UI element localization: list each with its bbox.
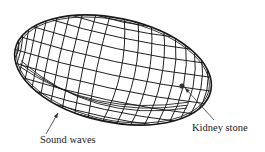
kidney-stone-label: Kidney stone	[192, 123, 248, 134]
sound-waves-label: Sound waves	[40, 135, 96, 146]
kidney-stone-marker	[179, 83, 184, 88]
kidney-diagram: Sound waves Kidney stone	[0, 0, 265, 152]
ellipsoid-outline	[4, 0, 221, 142]
sound-waves-arrowhead-icon	[54, 113, 58, 118]
